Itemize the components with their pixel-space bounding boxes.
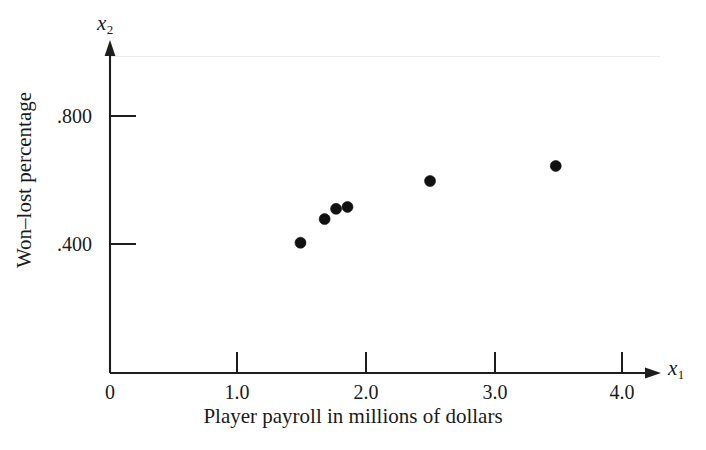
data-points-group [295,160,561,248]
data-point [295,237,306,248]
x-tick-label-1: 1.0 [225,382,250,402]
data-point [342,201,353,212]
x-tick-label-3: 3.0 [483,382,508,402]
x-axis-arrow-icon [645,368,661,379]
x-axis-variable-letter: x [668,356,677,380]
x-axis-title: Player payroll in millions of dollars [0,404,706,429]
data-point [425,176,436,187]
x-tick-label-4: 4.0 [610,382,635,402]
x-tick-label-2: 2.0 [354,382,379,402]
y-axis-variable-label: x2 [97,11,113,36]
data-point [550,160,561,171]
data-point [319,214,330,225]
y-axis-variable-subscript: 2 [107,22,114,37]
data-point [331,203,342,214]
x-axis-variable-subscript: 1 [678,367,685,382]
y-axis-variable-letter: x [97,11,106,35]
y-axis-arrow-icon [105,40,116,56]
scatter-plot-figure: .800 .400 0 1.0 2.0 3.0 4.0 x2 x1 Player… [0,0,706,450]
y-axis-title: Won–lost percentage [12,60,37,300]
x-axis-variable-label: x1 [668,356,684,381]
x-tick-label-0: 0 [105,382,115,402]
